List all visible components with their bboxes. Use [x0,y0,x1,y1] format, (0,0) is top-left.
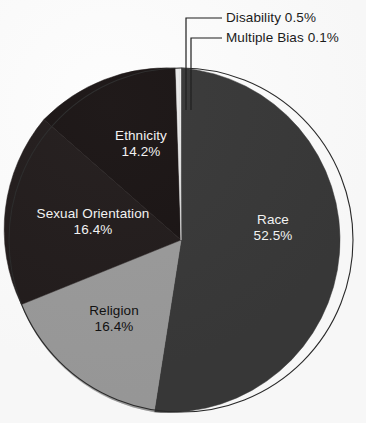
slice-label-religion-name: Religion [89,303,139,318]
callout-label-disability: Disability 0.5% [226,10,316,25]
slice-label-ethnicity-value: 14.2% [94,144,188,160]
slice-label-race-value: 52.5% [230,228,316,244]
slice-label-religion-value: 16.4% [68,319,160,335]
slice-label-sexual-orientation-name: Sexual Orientation [37,206,150,221]
pie-chart-figure: Disability 0.5% Multiple Bias 0.1% Race … [0,0,366,423]
slice-label-religion: Religion 16.4% [68,303,160,335]
slice-label-race-name: Race [257,212,289,227]
slice-label-race: Race 52.5% [230,212,316,244]
slice-label-ethnicity-name: Ethnicity [115,128,167,143]
slice-label-sexual-orientation-value: 16.4% [20,222,166,238]
slice-label-ethnicity: Ethnicity 14.2% [94,128,188,160]
callout-label-multiple-bias: Multiple Bias 0.1% [226,30,339,45]
slice-label-sexual-orientation: Sexual Orientation 16.4% [20,206,166,238]
